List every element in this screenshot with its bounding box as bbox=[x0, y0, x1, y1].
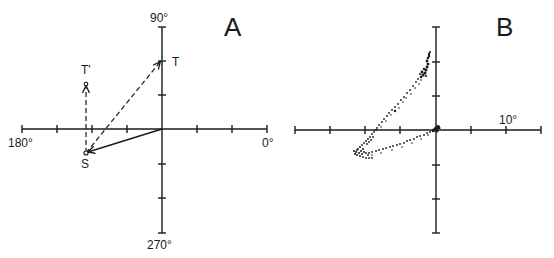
point-s-label: S bbox=[81, 158, 89, 170]
axis-label-90: 90° bbox=[150, 12, 168, 24]
panel-a bbox=[22, 27, 267, 233]
point-s-marker bbox=[84, 151, 88, 155]
axis-label-180: 180° bbox=[8, 137, 33, 149]
panel-a-label: A bbox=[224, 14, 241, 40]
point-t-label: T bbox=[172, 56, 179, 68]
point-t-prime-marker bbox=[84, 82, 88, 86]
vector-origin-to-s bbox=[88, 129, 162, 152]
axis-label-0: 0° bbox=[262, 137, 273, 149]
panel-b-horizontal-axis bbox=[295, 126, 541, 134]
point-t-prime-label: T' bbox=[81, 64, 91, 76]
vector-s-to-t bbox=[86, 62, 160, 153]
axis-label-10-degrees: 10° bbox=[499, 114, 517, 126]
panel-b-label: B bbox=[496, 14, 513, 40]
panel-b-scatter-points bbox=[353, 51, 441, 159]
panel-a-horizontal-axis bbox=[22, 125, 267, 133]
panel-b bbox=[295, 27, 541, 233]
figure-canvas bbox=[0, 0, 554, 258]
axis-label-270: 270° bbox=[147, 239, 172, 251]
